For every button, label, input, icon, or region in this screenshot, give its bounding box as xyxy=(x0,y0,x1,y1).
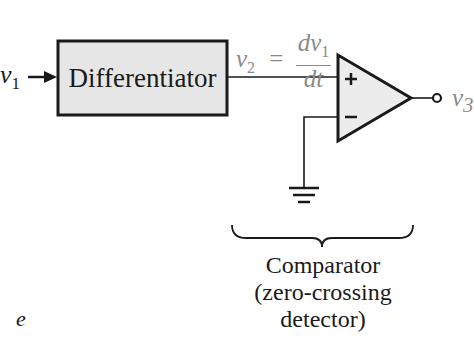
ground-wire xyxy=(304,117,338,188)
v2-equation: v2 = dv1 dt xyxy=(236,30,331,92)
caption-line: detector) xyxy=(232,306,414,333)
caption-line: (zero-crossing xyxy=(232,279,414,306)
output-label: v3 xyxy=(452,84,474,118)
comparator-caption: Comparator (zero-crossing detector) xyxy=(232,252,414,333)
output-terminal-icon xyxy=(433,94,441,102)
input-label: v1 xyxy=(0,60,20,94)
partial-figure-text: e xyxy=(16,306,26,332)
differentiator-label: Differentiator xyxy=(57,40,228,116)
opamp-triangle xyxy=(338,55,411,141)
input-arrowhead-icon xyxy=(44,71,57,83)
derivative-fraction: dv1 dt xyxy=(296,30,332,92)
caption-line: Comparator xyxy=(232,252,414,279)
ground-icon xyxy=(289,188,319,202)
comparator-brace xyxy=(232,225,413,247)
